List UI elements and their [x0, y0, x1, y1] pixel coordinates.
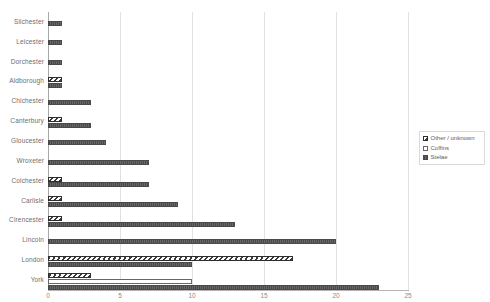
- bar-stelae: [48, 123, 91, 128]
- x-tick-label: 20: [332, 292, 339, 299]
- x-tick-label: 5: [118, 292, 122, 299]
- legend-label-stelae: Stelae: [431, 154, 448, 161]
- bar-stelae: [48, 100, 91, 105]
- x-tick-label: 15: [260, 292, 267, 299]
- chart-category-row: Cirencester: [48, 211, 408, 231]
- chart-category-row: Carlisle: [48, 191, 408, 211]
- y-axis-category-label: Cirencester: [9, 216, 44, 223]
- x-tick-label: 25: [404, 292, 411, 299]
- bar-stelae: [48, 222, 235, 227]
- x-tick-label: 10: [188, 292, 195, 299]
- chart-category-row: Leicester: [48, 32, 408, 52]
- bar-stelae: [48, 83, 62, 88]
- bar-stelae: [48, 262, 192, 267]
- legend-item-stelae[interactable]: Stelae: [423, 154, 481, 161]
- bar-stelae: [48, 140, 106, 145]
- gridline: [408, 12, 409, 290]
- bar-coffins: [48, 279, 192, 284]
- y-axis-category-label: Leicester: [16, 38, 44, 45]
- chart-category-row: Colchester: [48, 171, 408, 191]
- bar-stelae: [48, 40, 62, 45]
- bar-other: [48, 117, 62, 122]
- y-axis-category-label: York: [31, 276, 44, 283]
- legend-swatch-other-icon: [423, 136, 428, 141]
- y-axis-category-label: London: [21, 256, 44, 263]
- legend-swatch-coffins-icon: [423, 146, 428, 151]
- bar-stelae: [48, 285, 379, 290]
- bar-stelae: [48, 160, 149, 165]
- y-axis-category-label: Dorchester: [11, 58, 44, 65]
- y-axis-category-label: Silchester: [14, 18, 44, 25]
- bar-other: [48, 77, 62, 82]
- y-axis-category-label: Colchester: [11, 177, 44, 184]
- bar-chart: 0510152025 SilchesterLeicesterDorchester…: [0, 0, 490, 302]
- bar-stelae: [48, 239, 336, 244]
- x-axis-line: [48, 290, 409, 291]
- chart-category-row: Silchester: [48, 12, 408, 32]
- y-axis-category-label: Gloucester: [11, 137, 44, 144]
- bar-other: [48, 177, 62, 182]
- legend-label-coffins: Coffins: [431, 145, 450, 152]
- x-tick-label: 0: [46, 292, 50, 299]
- bar-other: [48, 273, 91, 278]
- plot-area: SilchesterLeicesterDorchesterAldboroughC…: [48, 12, 408, 290]
- legend-item-coffins[interactable]: Coffins: [423, 145, 481, 152]
- bar-other: [48, 196, 62, 201]
- chart-category-row: Canterbury: [48, 111, 408, 131]
- y-axis-category-label: Wroxeter: [17, 157, 44, 164]
- bar-stelae: [48, 182, 149, 187]
- bar-stelae: [48, 202, 178, 207]
- y-axis-category-label: Carlisle: [21, 197, 44, 204]
- bar-stelae: [48, 21, 62, 26]
- chart-category-row: Wroxeter: [48, 151, 408, 171]
- bar-other: [48, 216, 62, 221]
- y-axis-category-label: Canterbury: [10, 117, 44, 124]
- chart-category-row: Lincoln: [48, 230, 408, 250]
- bar-other: [48, 256, 293, 261]
- chart-category-row: Chichester: [48, 91, 408, 111]
- chart-category-row: York: [48, 270, 408, 290]
- y-axis-category-label: Chichester: [11, 97, 44, 104]
- legend-swatch-stelae-icon: [423, 155, 428, 160]
- y-axis-category-label: Aldborough: [9, 77, 44, 84]
- bar-stelae: [48, 60, 62, 65]
- chart-category-row: Aldborough: [48, 72, 408, 92]
- chart-category-row: Gloucester: [48, 131, 408, 151]
- chart-legend: Other / unknown Coffins Stelae: [419, 131, 485, 165]
- legend-item-other[interactable]: Other / unknown: [423, 135, 481, 142]
- y-axis-category-label: Lincoln: [22, 236, 44, 243]
- legend-label-other: Other / unknown: [431, 135, 475, 142]
- chart-category-row: London: [48, 250, 408, 270]
- chart-category-row: Dorchester: [48, 52, 408, 72]
